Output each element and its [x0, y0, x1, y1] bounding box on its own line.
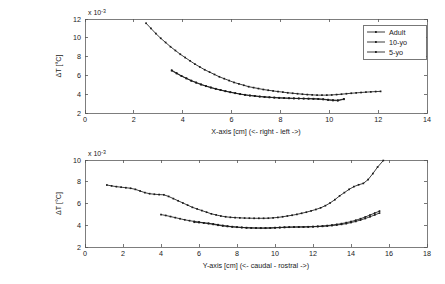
- series-marker: [288, 97, 290, 99]
- series-marker: [106, 184, 108, 186]
- series-marker: [262, 89, 264, 91]
- legend-label: 10-yo: [389, 38, 407, 47]
- y-tick-label: 6: [77, 71, 81, 80]
- x-axis-label: Y-axis [cm] (<- caudal - rostral ->): [203, 261, 309, 270]
- series-marker: [195, 82, 197, 84]
- series-marker: [363, 183, 365, 185]
- series-marker: [258, 217, 260, 219]
- series-marker: [210, 87, 212, 89]
- series-marker: [336, 94, 338, 96]
- series-marker: [158, 194, 160, 196]
- series-marker: [322, 225, 324, 227]
- series-marker: [149, 193, 151, 195]
- series-marker: [173, 198, 175, 200]
- series-marker: [179, 218, 181, 220]
- series-marker: [343, 98, 345, 100]
- series-marker: [272, 217, 274, 219]
- y-tick-label: 4: [77, 221, 81, 230]
- series-marker: [322, 99, 324, 101]
- series-marker: [155, 33, 157, 35]
- series-marker: [331, 224, 333, 226]
- y-tick-label: 2: [77, 109, 81, 118]
- series-marker: [355, 219, 357, 221]
- x-tick-label: 18: [423, 249, 431, 258]
- series-marker: [350, 221, 352, 223]
- series-marker: [176, 73, 178, 75]
- legend-marker: [375, 41, 377, 43]
- y-axis-multiplier: x 10-3: [88, 8, 106, 17]
- series-marker: [249, 95, 251, 97]
- series-marker: [377, 166, 379, 168]
- chart-panel-bottom: 024681012141618246810x 10-3Y-axis [cm] (…: [0, 142, 445, 284]
- series-marker: [145, 22, 147, 24]
- series-marker: [306, 94, 308, 96]
- series-marker: [308, 98, 310, 100]
- x-tick-label: 2: [132, 115, 136, 124]
- y-tick-label: 10: [73, 156, 81, 165]
- series-marker: [255, 227, 257, 229]
- x-tick-label: 6: [230, 115, 234, 124]
- series-marker: [298, 98, 300, 100]
- series-marker: [287, 92, 289, 94]
- series-marker: [184, 57, 186, 59]
- series-marker: [282, 91, 284, 93]
- series-marker: [233, 82, 235, 84]
- series-marker: [204, 69, 206, 71]
- series-marker: [236, 226, 238, 228]
- y-tick-label: 8: [77, 52, 81, 61]
- chart-svg-top: 0246810121424681012x 10-3X-axis [cm] (<-…: [0, 0, 445, 142]
- series-marker: [291, 214, 293, 216]
- series-marker: [182, 202, 184, 204]
- y-axis-multiplier: x 10-3: [88, 149, 106, 158]
- series-marker: [339, 195, 341, 197]
- series-marker: [344, 192, 346, 194]
- x-tick-label: 12: [309, 249, 317, 258]
- series-marker: [239, 217, 241, 219]
- x-tick-label: 4: [181, 115, 185, 124]
- series-marker: [215, 88, 217, 90]
- series-marker: [283, 97, 285, 99]
- series-marker: [230, 216, 232, 218]
- series-marker: [360, 92, 362, 94]
- series-marker: [365, 91, 367, 93]
- series-marker: [306, 211, 308, 213]
- series-marker: [329, 202, 331, 204]
- series-marker: [297, 93, 299, 95]
- series-marker: [370, 91, 372, 93]
- series-marker: [272, 90, 274, 92]
- series-marker: [205, 85, 207, 87]
- y-axis-label: ΔT [°C]: [54, 54, 63, 77]
- series-marker: [284, 227, 286, 229]
- x-tick-label: 16: [385, 249, 393, 258]
- series-marker: [125, 187, 127, 189]
- series-marker: [135, 189, 137, 191]
- series-marker: [234, 92, 236, 94]
- x-tick-label: 4: [159, 249, 163, 258]
- series-marker: [374, 214, 376, 216]
- series-marker: [316, 94, 318, 96]
- series-marker: [189, 60, 191, 62]
- legend: Adult10-yo5-yo: [363, 25, 426, 59]
- series-marker: [227, 225, 229, 227]
- series-marker: [260, 227, 262, 229]
- series-marker: [293, 226, 295, 228]
- series-marker: [350, 92, 352, 94]
- series-marker: [259, 96, 261, 98]
- series-marker: [253, 87, 255, 89]
- series-marker: [358, 184, 360, 186]
- series-marker: [201, 210, 203, 212]
- series-marker: [293, 98, 295, 100]
- y-tick-label: 12: [73, 15, 81, 24]
- series-marker: [120, 186, 122, 188]
- series-marker: [369, 214, 371, 216]
- series-marker: [369, 216, 371, 218]
- series-marker: [332, 100, 334, 102]
- series-marker: [189, 220, 191, 222]
- series-marker: [341, 223, 343, 225]
- series-marker: [244, 94, 246, 96]
- series-marker: [303, 98, 305, 100]
- series-marker: [296, 214, 298, 216]
- y-tick-label: 10: [73, 33, 81, 42]
- series-marker: [208, 222, 210, 224]
- series-marker: [311, 94, 313, 96]
